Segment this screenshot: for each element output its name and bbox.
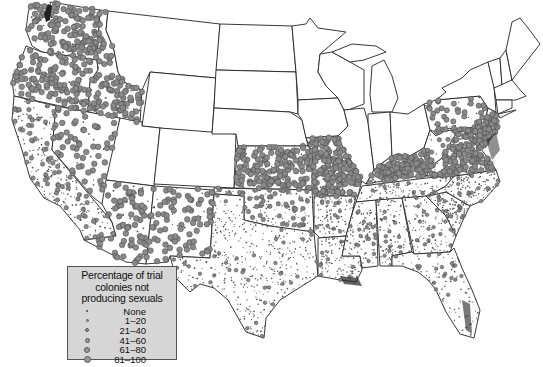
legend-label: 81–100 [102, 354, 146, 365]
circle-symbol-icon [84, 347, 90, 353]
state-wyoming [142, 72, 216, 134]
legend-items: None 1–20 21–40 41–60 61–80 81–100 [72, 307, 172, 365]
legend-item-81-100: 81–100 [72, 354, 172, 364]
circle-symbol-icon [84, 356, 91, 363]
circle-symbol-icon [86, 319, 89, 322]
dot-symbol-icon [86, 310, 88, 312]
legend-title-line-3: producing sexuals [72, 293, 172, 305]
circle-symbol-icon [85, 328, 89, 332]
state-maine [506, 18, 540, 80]
circle-symbol-icon [85, 338, 90, 343]
state-colorado [154, 128, 236, 188]
state-south-dakota [214, 70, 298, 114]
legend: Percentage of trial colonies not produci… [67, 266, 177, 360]
legend-title: Percentage of trial colonies not produci… [72, 270, 172, 305]
state-north-dakota [216, 24, 296, 72]
legend-title-line-1: Percentage of trial [72, 270, 172, 282]
